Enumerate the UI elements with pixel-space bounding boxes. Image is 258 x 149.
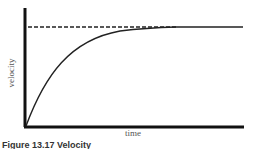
y-axis-label: velocity — [6, 48, 16, 98]
figure-caption: Figure 13.17 Velocity — [2, 140, 91, 149]
x-axis-label: time — [125, 128, 141, 138]
velocity-time-chart: velocity time Figure 13.17 Velocity — [0, 0, 258, 149]
velocity-curve — [26, 27, 243, 126]
chart-plot — [0, 0, 258, 149]
